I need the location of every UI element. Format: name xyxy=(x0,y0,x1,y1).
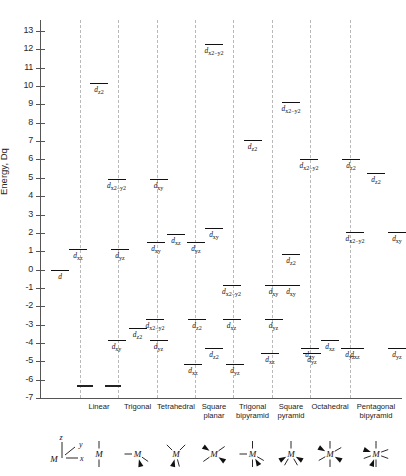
energy-level-line xyxy=(69,249,87,250)
y-tick xyxy=(36,104,40,105)
y-tick-label: 3 xyxy=(11,209,33,219)
y-tick xyxy=(36,123,40,124)
energy-level-line xyxy=(265,285,283,286)
energy-level-line xyxy=(150,179,168,180)
y-tick xyxy=(36,178,40,179)
y-tick-label: 6 xyxy=(11,153,33,163)
y-tick xyxy=(36,86,40,87)
orbital-label: dz2 xyxy=(286,256,295,266)
y-tick xyxy=(36,325,40,326)
y-tick xyxy=(36,270,40,271)
geometry-diagram-square-pyramid: M xyxy=(272,432,310,476)
y-tick-label: 2 xyxy=(11,227,33,237)
svg-text:M: M xyxy=(248,449,257,459)
column-divider xyxy=(80,20,81,398)
orbital-label: dyz xyxy=(230,366,239,376)
orbital-label: dyz xyxy=(115,251,124,261)
orbital-label: dxz xyxy=(73,251,82,261)
orbital-label: d xyxy=(58,272,62,281)
y-tick-label: -3 xyxy=(11,319,33,329)
y-tick-inner xyxy=(41,178,45,179)
energy-level-line xyxy=(205,348,223,349)
energy-level-line xyxy=(187,242,205,243)
geometry-label-trigonal-bipyramid: Trigonal bipyramid xyxy=(233,402,272,420)
y-tick xyxy=(36,68,40,69)
energy-level-line xyxy=(108,179,126,180)
energy-level-line xyxy=(388,348,406,349)
geometry-diagram-trigonal-bipyramid: M xyxy=(233,432,272,476)
energy-level-line xyxy=(205,228,223,229)
svg-text:M: M xyxy=(209,449,218,459)
y-tick xyxy=(36,159,40,160)
orbital-label: dxz xyxy=(227,321,236,331)
orbital-label: dxy xyxy=(151,244,161,254)
energy-level-line xyxy=(282,254,300,255)
geometry-diagram-linear: M xyxy=(80,432,118,476)
orbital-label: dxy xyxy=(269,287,279,297)
geometry-diagram-octahedral: M xyxy=(310,432,350,476)
y-tick-label: 0 xyxy=(11,264,33,274)
y-tick-inner xyxy=(41,123,45,124)
energy-level-line xyxy=(301,348,319,349)
y-tick-label: -6 xyxy=(11,374,33,384)
svg-text:M: M xyxy=(94,449,103,459)
orbital-label: dxy xyxy=(286,287,296,297)
energy-level-line xyxy=(129,328,147,329)
energy-level-line xyxy=(77,385,93,387)
orbital-label: dyz xyxy=(191,244,200,254)
energy-level-line xyxy=(367,173,385,174)
svg-text:z: z xyxy=(58,433,63,442)
geometry-diagram-tetrahedral: M xyxy=(157,432,195,476)
energy-level-line xyxy=(261,353,279,354)
energy-level-line xyxy=(346,348,364,349)
y-tick-label: 13 xyxy=(11,25,33,35)
orbital-label: dxz xyxy=(325,342,334,352)
energy-level-line xyxy=(265,319,283,320)
y-tick xyxy=(36,306,40,307)
orbital-label: dxz xyxy=(265,355,274,365)
energy-level-line xyxy=(282,285,300,286)
energy-level-line xyxy=(300,159,318,160)
orbital-label: dxy xyxy=(392,234,402,244)
geometry-label-tetrahedral: Tetrahedral xyxy=(157,402,195,411)
orbital-label: dxz xyxy=(350,350,359,360)
y-tick-inner xyxy=(41,233,45,234)
y-tick-inner xyxy=(41,380,45,381)
orbital-label: dx2−y2 xyxy=(281,104,300,114)
svg-text:M: M xyxy=(133,449,142,459)
y-tick-label: 12 xyxy=(11,43,33,53)
geometry-label-octahedral: Octahedral xyxy=(310,402,350,411)
energy-level-line xyxy=(108,340,126,341)
energy-level-line xyxy=(51,270,69,271)
y-tick xyxy=(36,141,40,142)
energy-level-line xyxy=(184,364,202,365)
y-tick-inner xyxy=(41,361,45,362)
orbital-label: dz2 xyxy=(192,321,201,331)
geometry-diagram-pentagonal-bipyramid: M xyxy=(350,432,402,476)
svg-text:M: M xyxy=(49,454,58,464)
y-tick-inner xyxy=(41,68,45,69)
y-tick xyxy=(36,343,40,344)
y-tick-label: 7 xyxy=(11,135,33,145)
energy-level-line xyxy=(342,159,360,160)
y-tick-label: 1 xyxy=(11,245,33,255)
geometry-diagram-square-planar: M xyxy=(195,432,233,476)
energy-level-line xyxy=(321,340,339,341)
y-tick xyxy=(36,215,40,216)
orbital-label: dz2 xyxy=(94,85,103,95)
energy-level-line xyxy=(90,83,108,84)
orbital-label: dx2−y2 xyxy=(204,46,223,56)
y-tick-inner xyxy=(41,159,45,160)
y-tick-inner xyxy=(41,343,45,344)
orbital-label: dx2−y2 xyxy=(345,234,364,244)
geometry-label-trigonal: Trigonal xyxy=(118,402,157,411)
orbital-label: dz2 xyxy=(248,142,257,152)
y-tick xyxy=(36,251,40,252)
energy-level-line xyxy=(223,285,241,286)
y-tick-inner xyxy=(41,251,45,252)
orbital-label: dyz xyxy=(269,321,278,331)
y-tick-inner xyxy=(41,215,45,216)
orbital-label: dx2−y2 xyxy=(107,181,126,191)
y-tick-label: -5 xyxy=(11,355,33,365)
axes-key-diagram: zyxM xyxy=(40,432,80,476)
